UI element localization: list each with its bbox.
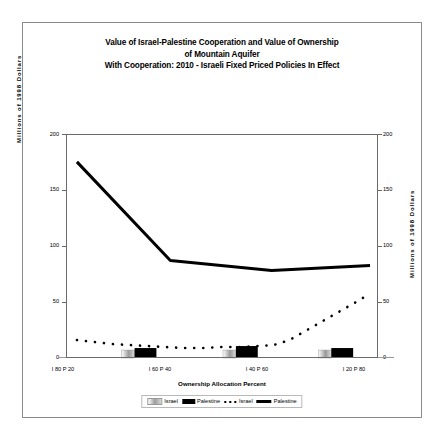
legend-label-israel-bar: Israel — [164, 399, 178, 405]
x-axis-tick-label-1: I 80 P 20 — [33, 366, 93, 372]
y-axis-right-tickmark-50 — [378, 302, 382, 303]
plot-series-svg — [67, 135, 377, 358]
y-axis-right-tick-label-200: 200 — [383, 131, 405, 137]
chart-title: Value of Israel-Palestine Cooperation an… — [23, 37, 421, 72]
legend-label-israel-line: Israel — [239, 399, 253, 405]
y-axis-right-tick-label-100: 100 — [383, 242, 405, 248]
legend-entry-palestine-bar[interactable]: Palestine — [182, 399, 220, 405]
gray-bar-swatch-icon — [147, 398, 162, 405]
legend-label-palestine-line: Palestine — [274, 399, 297, 405]
chart-frame: Value of Israel-Palestine Cooperation an… — [22, 22, 422, 418]
legend-entry-israel-bar[interactable]: Israel — [147, 398, 178, 405]
x-axis-tick-label-4: I 20 P 80 — [324, 366, 384, 372]
chart-title-line-2: of Mountain Aquifer — [23, 49, 421, 61]
legend-entry-palestine-line[interactable]: Palestine — [257, 399, 297, 405]
x-axis-tick-label-2: I 60 P 40 — [130, 366, 190, 372]
dotted-line-swatch-icon — [224, 399, 237, 404]
black-bar-swatch-icon — [182, 399, 195, 404]
y-axis-tick-label-100: 100 — [37, 242, 59, 248]
y-axis-right-tickmark-150 — [378, 190, 382, 191]
y-axis-right-tick-label-50: 50 — [383, 298, 405, 304]
y-axis-title-left: Millions of 1998 Dollars — [16, 0, 22, 143]
y-axis-tick-label-200: 200 — [37, 131, 59, 137]
y-axis-right-tickmark-100 — [378, 246, 382, 247]
y-axis-tick-label-0: 0 — [37, 354, 59, 360]
y-axis-title-right: Millions of 1998 Dollars — [409, 128, 415, 278]
chart-legend: Israel Palestine Israel Palestine — [141, 395, 302, 408]
y-axis-right-tick-label-150: 150 — [383, 186, 405, 192]
y-axis-tick-label-50: 50 — [37, 298, 59, 304]
legend-entry-israel-line[interactable]: Israel — [224, 399, 253, 405]
series-palestine-solid — [77, 162, 370, 271]
chart-title-line-3: With Cooperation: 2010 - Israeli Fixed P… — [23, 60, 421, 72]
legend-label-palestine-bar: Palestine — [197, 399, 220, 405]
y-axis-right-tickmark-200 — [378, 134, 382, 135]
plot-area — [66, 134, 378, 358]
chart-title-line-1: Value of Israel-Palestine Cooperation an… — [23, 37, 421, 49]
x-axis-tick-label-3: I 40 P 60 — [227, 366, 287, 372]
series-israel-dotted — [77, 293, 370, 348]
solid-line-swatch-icon — [257, 400, 272, 403]
x-axis-title: Ownership Allocation Percent — [23, 380, 421, 387]
y-axis-tick-label-150: 150 — [37, 186, 59, 192]
x-axis-baseline — [66, 357, 378, 358]
